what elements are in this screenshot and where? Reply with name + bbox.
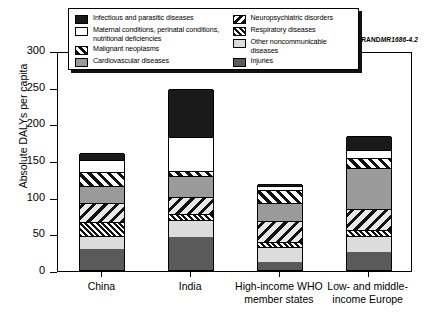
legend-item-infectious: Infectious and parasitic diseases [75,14,233,24]
bar-segment-maternal [169,137,213,171]
bar-segment-injuries [258,262,302,270]
y-axis-tick [50,162,57,163]
bar-segment-maternal [347,150,391,157]
bar-segment-malignant [80,172,124,187]
stacked-bar [346,137,392,271]
legend-label-infectious: Infectious and parasitic diseases [93,14,194,23]
x-axis-tick [279,272,280,277]
x-axis-category-label: High-income WHO member states [229,280,329,305]
bar-segment-other [258,247,302,262]
bar-segment-maternal [80,160,124,172]
legend-item-neuro: Neuropsychiatric disorders [233,14,353,24]
plot-area [57,52,412,272]
legend-swatch-maternal-icon [75,27,88,36]
legend-label-neuro: Neuropsychiatric disorders [251,14,334,23]
y-axis-tick-label: 150 [5,154,45,166]
stacked-bar [257,185,303,271]
y-axis-tick [50,125,57,126]
bar-segment-infectious [258,184,302,186]
stacked-bar [168,90,214,271]
legend-swatch-resp-icon [233,27,246,36]
y-axis-tick-label: 300 [5,44,45,56]
y-axis-tick-label: 0 [5,264,45,276]
bar-segment-injuries [347,252,391,270]
legend-label-malignant: Malignant neoplasms [93,45,159,54]
y-axis-tick-label: 50 [5,227,45,239]
bar-column [79,51,125,271]
x-axis-category-label: India [140,280,240,293]
legend-item-cardio: Cardiovascular diseases [75,57,233,67]
bar-segment-infectious [80,153,124,160]
legend-label-resp: Respiratory diseases [251,26,316,35]
rand-figure-id-prefix: RAND [361,36,380,43]
legend-column-right: Neuropsychiatric disorders Respiratory d… [233,14,353,65]
bar-column [257,51,303,271]
x-axis-tick [368,272,369,277]
chart-legend: Infectious and parasitic diseases Matern… [68,8,359,70]
bar-segment-cardio [258,203,302,221]
y-axis-tick-label: 100 [5,191,45,203]
bar-segment-cardio [169,176,213,197]
bar-segment-malignant [169,171,213,176]
legend-label-maternal: Maternal conditions, perinatal condition… [93,26,233,43]
x-axis-category-label: China [51,280,151,293]
legend-swatch-other-icon [233,39,246,48]
bar-segment-other [347,236,391,252]
y-axis-tick [50,235,57,236]
legend-label-other: Other noncommunicable diseases [251,38,353,55]
bar-segment-infectious [169,89,213,137]
y-axis-tick-label: 200 [5,117,45,129]
x-axis-tick [101,272,102,277]
bar-segment-malignant [347,158,391,168]
y-axis-tick-label: 250 [5,81,45,93]
bar-segment-neuro [347,209,391,230]
bar-segment-neuro [80,203,124,222]
legend-swatch-neuro-icon [233,15,246,24]
legend-swatch-injuries-icon [233,58,246,67]
bar-segment-resp [347,230,391,236]
stacked-bar [79,154,125,271]
bar-group [58,52,412,271]
bar-segment-other [80,236,124,249]
legend-item-maternal: Maternal conditions, perinatal condition… [75,26,233,43]
rand-figure-id: RANDMR1686-4.2 [361,36,418,43]
legend-label-injuries: Injuries [251,57,273,66]
bar-segment-other [169,220,213,237]
y-axis-tick [50,199,57,200]
bar-segment-maternal [258,186,302,190]
bar-segment-infectious [347,136,391,151]
bar-segment-resp [169,214,213,220]
y-axis-tick [50,52,57,53]
legend-column-left: Infectious and parasitic diseases Matern… [75,14,233,65]
bar-segment-injuries [169,237,213,270]
x-axis-category-label: Low- and middle-income Europe [318,280,418,305]
legend-item-other: Other noncommunicable diseases [233,38,353,55]
bar-column [346,51,392,271]
legend-swatch-infectious-icon [75,15,88,24]
legend-swatch-cardio-icon [75,58,88,67]
bar-segment-resp [258,242,302,247]
bar-segment-cardio [347,168,391,209]
bar-segment-neuro [258,221,302,242]
y-axis-tick [50,89,57,90]
bar-segment-resp [80,222,124,236]
legend-item-malignant: Malignant neoplasms [75,45,233,55]
bar-segment-cardio [80,186,124,202]
legend-item-resp: Respiratory diseases [233,26,353,36]
bar-column [168,51,214,271]
y-axis-tick [50,272,57,273]
bar-segment-neuro [169,197,213,214]
bar-segment-injuries [80,249,124,270]
x-axis-tick [190,272,191,277]
figure-daly-chart: Infectious and parasitic diseases Matern… [0,0,428,319]
rand-figure-id-suffix: MR1686-4.2 [381,36,418,43]
legend-label-cardio: Cardiovascular diseases [93,57,169,66]
legend-swatch-malignant-icon [75,46,88,55]
bar-segment-malignant [258,190,302,203]
legend-item-injuries: Injuries [233,57,353,67]
